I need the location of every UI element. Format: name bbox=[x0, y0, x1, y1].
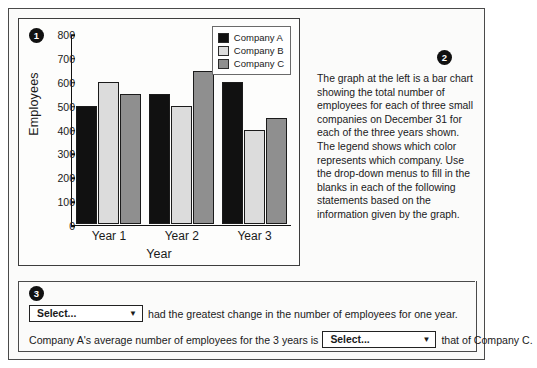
bar-chart: Employees Year 0100200300400500600700800… bbox=[19, 19, 299, 265]
badge-2: 2 bbox=[437, 50, 452, 65]
dropdown-1-value: Select... bbox=[37, 308, 76, 319]
top-region: 1 Employees Year 01002003004005006007008… bbox=[9, 9, 484, 275]
chart-panel: 1 Employees Year 01002003004005006007008… bbox=[18, 18, 300, 266]
y-tick-label: 0 bbox=[27, 221, 75, 232]
y-tick-label: 300 bbox=[27, 149, 75, 160]
statement-2-text-after: that of Company C. bbox=[436, 334, 537, 346]
chevron-down-icon: ▼ bbox=[129, 310, 137, 318]
bar-group bbox=[149, 35, 214, 224]
y-tick-label: 200 bbox=[27, 173, 75, 184]
question-frame: 1 Employees Year 01002003004005006007008… bbox=[8, 8, 485, 360]
chevron-down-icon: ▼ bbox=[422, 336, 430, 344]
legend-swatch-icon bbox=[218, 46, 229, 56]
statement-row-1: Select... ▼ had the greatest change in t… bbox=[29, 305, 463, 322]
select-dropdown-2[interactable]: Select... ▼ bbox=[322, 331, 436, 348]
bar bbox=[98, 82, 119, 224]
instructions-text: The graph at the left is a bar chart sho… bbox=[317, 72, 473, 222]
chart-legend: Company ACompany BCompany C bbox=[212, 26, 291, 75]
legend-swatch-icon bbox=[218, 59, 229, 69]
legend-item: Company B bbox=[218, 44, 284, 57]
statement-1-text: had the greatest change in the number of… bbox=[143, 308, 463, 320]
bar bbox=[120, 94, 141, 224]
x-tick-label: Year 2 bbox=[146, 229, 218, 243]
statement-2-text-before: Company A's average number of employees … bbox=[29, 334, 318, 346]
instructions-panel: 2 The graph at the left is a bar chart s… bbox=[309, 18, 477, 266]
badge-3: 3 bbox=[29, 286, 44, 301]
bar bbox=[193, 71, 214, 225]
bar bbox=[149, 94, 170, 224]
y-tick-label: 700 bbox=[27, 54, 75, 65]
legend-swatch-icon bbox=[218, 33, 229, 43]
statement-row-2: Company A's average number of employees … bbox=[29, 331, 537, 348]
x-tick-label: Year 3 bbox=[219, 229, 291, 243]
bar bbox=[76, 106, 97, 224]
y-tick-label: 800 bbox=[27, 30, 75, 41]
y-tick-label: 500 bbox=[27, 101, 75, 112]
legend-label: Company A bbox=[234, 31, 283, 44]
bar-group bbox=[76, 35, 141, 224]
bar bbox=[244, 130, 265, 225]
legend-label: Company B bbox=[234, 44, 284, 57]
x-axis-title: Year bbox=[19, 247, 299, 261]
y-tick-label: 400 bbox=[27, 125, 75, 136]
legend-label: Company C bbox=[234, 57, 284, 70]
bar bbox=[266, 118, 287, 225]
legend-item: Company C bbox=[218, 57, 284, 70]
x-axis-labels: Year 1Year 2Year 3 bbox=[73, 229, 291, 243]
y-tick-label: 600 bbox=[27, 78, 75, 89]
bar bbox=[171, 106, 192, 224]
legend-item: Company A bbox=[218, 31, 284, 44]
x-tick-label: Year 1 bbox=[73, 229, 145, 243]
dropdown-2-value: Select... bbox=[330, 334, 369, 345]
select-dropdown-1[interactable]: Select... ▼ bbox=[29, 305, 143, 322]
y-tick-mark bbox=[71, 225, 75, 227]
answers-panel: 3 Select... ▼ had the greatest change in… bbox=[18, 281, 477, 352]
bar bbox=[222, 82, 243, 224]
y-tick-label: 100 bbox=[27, 197, 75, 208]
